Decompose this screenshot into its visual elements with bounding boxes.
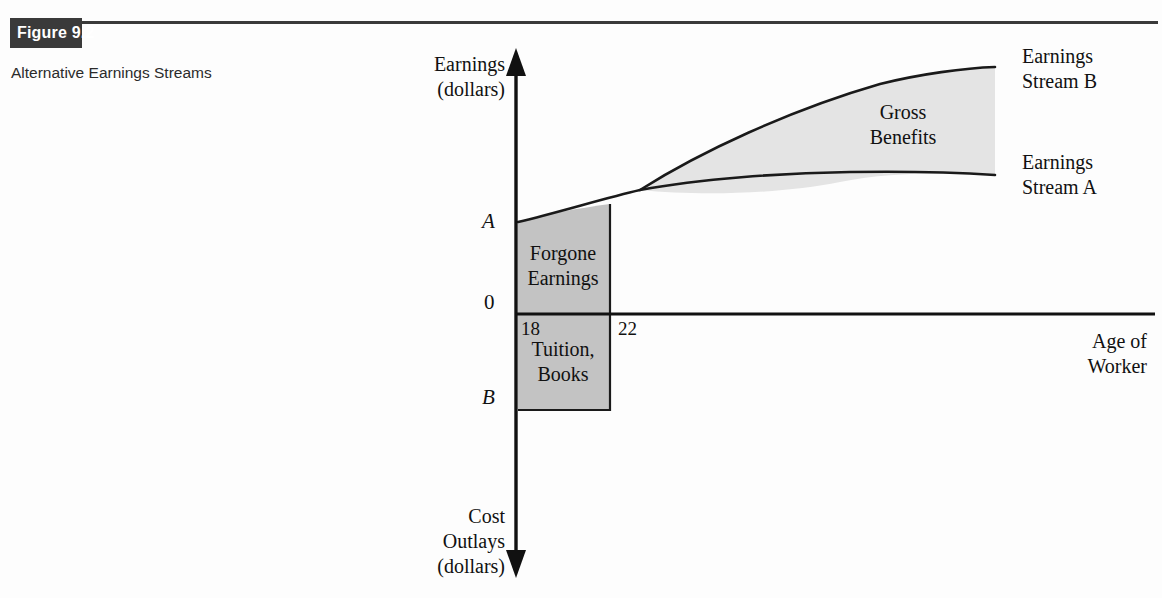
region-label-gross-benefits-line1: Gross <box>840 100 966 125</box>
x-axis-tick-label-22: 22 <box>618 318 637 340</box>
region-label-tuition-books-line1: Tuition, <box>515 337 611 362</box>
series-label-earnings-stream-b-line2: Stream B <box>1022 69 1097 94</box>
y-axis-positive-title: Earnings (dollars) <box>385 52 505 102</box>
region-label-forgone-earnings-line1: Forgone <box>515 241 611 266</box>
y-axis-tick-label-zero: 0 <box>484 290 495 315</box>
y-axis-down-arrowhead <box>506 550 526 578</box>
y-axis-negative-title-line3: (dollars) <box>385 554 505 579</box>
series-label-earnings-stream-b-line1: Earnings <box>1022 44 1097 69</box>
region-label-forgone-earnings: Forgone Earnings <box>515 241 611 291</box>
x-axis-title-line1: Age of <box>1025 329 1147 354</box>
y-axis-negative-title-line1: Cost <box>385 504 505 529</box>
region-label-forgone-earnings-line2: Earnings <box>515 266 611 291</box>
series-label-earnings-stream-a-line2: Stream A <box>1022 175 1097 200</box>
series-label-earnings-stream-b: Earnings Stream B <box>1022 44 1097 94</box>
region-label-gross-benefits: Gross Benefits <box>840 100 966 150</box>
y-axis-up-arrowhead <box>506 48 526 76</box>
chart-svg <box>0 0 1162 598</box>
region-label-tuition-books: Tuition, Books <box>515 337 611 387</box>
x-axis-title: Age of Worker <box>1025 329 1147 379</box>
y-axis-negative-title-line2: Outlays <box>385 529 505 554</box>
y-axis-positive-title-line2: (dollars) <box>385 77 505 102</box>
x-axis-title-line2: Worker <box>1025 354 1147 379</box>
earnings-streams-chart: Earnings (dollars) Cost Outlays (dollars… <box>0 0 1162 598</box>
figure-page: Figure 9.2 Alternative Earnings Streams <box>0 0 1162 598</box>
y-axis-tick-label-A: A <box>482 209 495 234</box>
y-axis-negative-title: Cost Outlays (dollars) <box>385 504 505 579</box>
region-label-tuition-books-line2: Books <box>515 362 611 387</box>
series-label-earnings-stream-a-line1: Earnings <box>1022 150 1097 175</box>
series-label-earnings-stream-a: Earnings Stream A <box>1022 150 1097 200</box>
y-axis-tick-label-B: B <box>482 385 495 410</box>
region-label-gross-benefits-line2: Benefits <box>840 125 966 150</box>
y-axis-positive-title-line1: Earnings <box>385 52 505 77</box>
